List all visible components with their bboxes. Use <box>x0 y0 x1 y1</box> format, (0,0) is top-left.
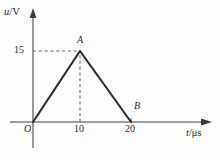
x-axis-arrow-icon <box>201 118 212 125</box>
y-tick-label-15: 15 <box>14 45 24 55</box>
x-axis-label: t/μs <box>186 128 202 139</box>
origin-label: O <box>24 124 31 134</box>
point-label-b: B <box>134 101 140 111</box>
y-axis-label: u/V <box>4 7 20 18</box>
voltage-time-graph-figure: u/V t/μs 15 10 20 O A B <box>0 0 220 160</box>
x-axis-label-unit: /μs <box>189 127 202 138</box>
waveform-curve <box>33 51 131 122</box>
point-label-a: A <box>77 35 83 45</box>
y-axis-label-unit: /V <box>9 6 20 17</box>
x-tick-label-10: 10 <box>74 124 84 134</box>
x-tick-label-20: 20 <box>125 124 135 134</box>
y-axis-arrow-icon <box>30 8 37 18</box>
